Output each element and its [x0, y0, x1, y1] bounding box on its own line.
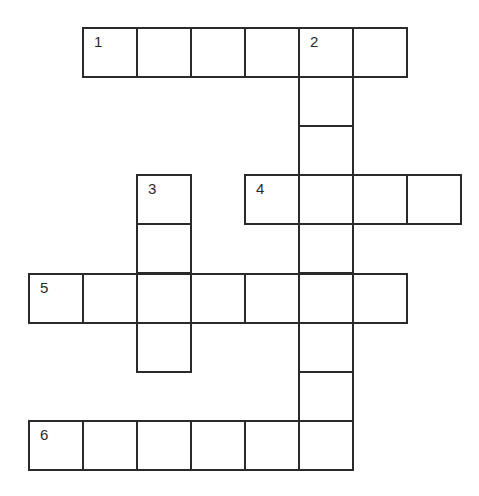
crossword-cell[interactable]: [298, 273, 354, 324]
crossword-cell[interactable]: [352, 27, 408, 78]
crossword-cell-4[interactable]: 4: [244, 174, 300, 225]
crossword-cell[interactable]: [190, 420, 246, 471]
crossword-grid: 123456: [0, 0, 479, 496]
crossword-cell[interactable]: [136, 27, 192, 78]
crossword-cell-6[interactable]: 6: [28, 420, 84, 471]
crossword-cell[interactable]: [190, 27, 246, 78]
crossword-cell-2[interactable]: 2: [298, 27, 354, 78]
clue-number: 2: [310, 34, 318, 49]
crossword-cell[interactable]: [244, 27, 300, 78]
crossword-cell[interactable]: [136, 322, 192, 373]
crossword-cell-3[interactable]: 3: [136, 174, 192, 225]
crossword-cell[interactable]: [82, 420, 138, 471]
crossword-cell[interactable]: [352, 273, 408, 324]
crossword-cell[interactable]: [136, 273, 192, 324]
crossword-cell[interactable]: [352, 174, 408, 225]
crossword-cell[interactable]: [136, 223, 192, 274]
crossword-cell[interactable]: [298, 322, 354, 373]
crossword-cell[interactable]: [244, 420, 300, 471]
crossword-cell[interactable]: [244, 273, 300, 324]
clue-number: 5: [40, 280, 48, 295]
crossword-cell[interactable]: [298, 76, 354, 127]
crossword-cell[interactable]: [298, 223, 354, 274]
clue-number: 6: [40, 427, 48, 442]
clue-number: 3: [148, 181, 156, 196]
crossword-cell[interactable]: [406, 174, 462, 225]
crossword-cell[interactable]: [298, 420, 354, 471]
crossword-cell[interactable]: [298, 371, 354, 422]
crossword-cell-5[interactable]: 5: [28, 273, 84, 324]
clue-number: 1: [94, 34, 102, 49]
crossword-cell[interactable]: [190, 273, 246, 324]
crossword-cell[interactable]: [82, 273, 138, 324]
clue-number: 4: [256, 181, 264, 196]
crossword-cell[interactable]: [298, 174, 354, 225]
crossword-cell[interactable]: [136, 420, 192, 471]
crossword-cell[interactable]: [298, 125, 354, 176]
crossword-cell-1[interactable]: 1: [82, 27, 138, 78]
